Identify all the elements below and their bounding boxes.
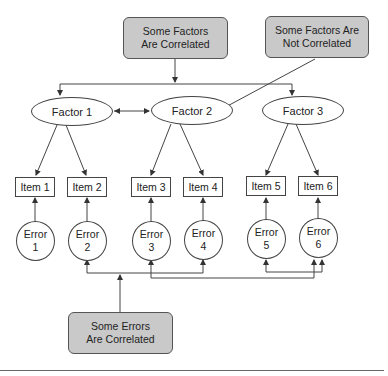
error-number: 4 xyxy=(201,240,207,253)
error-3-node: Error3 xyxy=(132,221,171,261)
error-5-node: Error5 xyxy=(247,219,286,259)
error-word: Error xyxy=(307,225,330,238)
note-errors-correlated: Some Errors Are Correlated xyxy=(68,312,173,354)
item-label: Item 1 xyxy=(20,181,49,193)
factor-1-node: Factor 1 xyxy=(31,97,113,126)
error-number: 5 xyxy=(264,239,270,252)
item-3-node: Item 3 xyxy=(131,177,171,197)
note-line: Are Correlated xyxy=(141,38,209,51)
error-number: 6 xyxy=(316,238,322,251)
factor-label: Factor 3 xyxy=(283,105,323,117)
error-word: Error xyxy=(140,228,163,241)
note-line: Are Correlated xyxy=(86,333,154,346)
bottom-divider xyxy=(0,370,384,371)
item-6-node: Item 6 xyxy=(298,176,338,196)
item-label: Item 3 xyxy=(136,181,165,193)
item-2-node: Item 2 xyxy=(67,177,107,197)
note-line: Some Factors Are xyxy=(275,24,359,37)
note-line: Not Correlated xyxy=(275,37,359,50)
item-label: Item 4 xyxy=(188,181,217,193)
error-word: Error xyxy=(255,226,278,239)
error-1-node: Error1 xyxy=(16,221,55,261)
item-4-node: Item 4 xyxy=(183,177,223,197)
factor-2-node: Factor 2 xyxy=(151,96,233,125)
error-number: 3 xyxy=(149,241,155,254)
item-label: Item 6 xyxy=(303,180,332,192)
item-5-node: Item 5 xyxy=(246,176,286,196)
error-word: Error xyxy=(192,227,215,240)
error-4-node: Error4 xyxy=(184,220,223,260)
error-number: 2 xyxy=(85,241,91,254)
error-6-node: Error6 xyxy=(299,218,338,258)
factor-3-node: Factor 3 xyxy=(262,96,344,125)
note-factors-correlated: Some Factors Are Correlated xyxy=(123,17,228,59)
note-line: Some Factors xyxy=(141,25,209,38)
error-number: 1 xyxy=(33,241,39,254)
note-line: Some Errors xyxy=(86,320,154,333)
factor-label: Factor 1 xyxy=(52,106,92,118)
item-label: Item 2 xyxy=(72,181,101,193)
item-1-node: Item 1 xyxy=(15,177,55,197)
error-word: Error xyxy=(76,228,99,241)
factor-label: Factor 2 xyxy=(172,105,212,117)
note-factors-not-correlated: Some Factors Are Not Correlated xyxy=(265,16,369,58)
error-word: Error xyxy=(24,228,47,241)
item-label: Item 5 xyxy=(251,180,280,192)
error-2-node: Error2 xyxy=(68,221,107,261)
